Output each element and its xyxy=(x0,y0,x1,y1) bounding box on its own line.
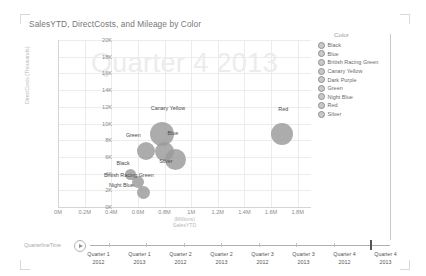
timeline-step-0[interactable]: Quarter 12012 xyxy=(78,251,119,266)
timeline-step-labels: Quarter 12012Quarter 12013Quarter 22012Q… xyxy=(78,251,406,266)
x-tick-label: 1.8M xyxy=(278,209,318,215)
timeline-step-line2: 2013 xyxy=(298,259,310,265)
y-tick-label: 6K xyxy=(52,154,112,160)
timeline-track[interactable] xyxy=(90,245,390,246)
y-tick-label: 8K xyxy=(52,137,112,143)
timeline-step-3[interactable]: Quarter 22013 xyxy=(201,251,242,266)
x-axis-title: (Millions)SalesYTD xyxy=(58,216,311,228)
vertical-scrollbar[interactable] xyxy=(390,34,391,240)
legend-swatch-icon xyxy=(318,85,325,92)
legend-item-black[interactable]: Black xyxy=(318,41,388,50)
legend-item-british-racing-green[interactable]: British Racing Green xyxy=(318,58,388,67)
y-tick-label: 12K xyxy=(52,104,112,110)
legend-item-label: Night Blue xyxy=(328,94,353,100)
legend-item-night-blue[interactable]: Night Blue xyxy=(318,93,388,102)
legend-item-label: Black xyxy=(328,42,341,48)
bubble-label-silver: Silver xyxy=(159,158,172,164)
legend-swatch-icon xyxy=(318,76,325,83)
legend-item-label: Blue xyxy=(328,51,339,57)
timeline-step-line1: Quarter 1 xyxy=(128,251,150,257)
timeline-step-5[interactable]: Quarter 32013 xyxy=(283,251,324,266)
legend-swatch-icon xyxy=(318,59,325,66)
bubble-label-night-blue: Night Blue xyxy=(109,182,134,188)
y-tick-label: 18K xyxy=(52,54,112,60)
timeline-step-1[interactable]: Quarter 12013 xyxy=(119,251,160,266)
timeline-step-line2: 2012 xyxy=(175,259,187,265)
timeline-step-line1: Quarter 2 xyxy=(169,251,191,257)
legend-item-canary-yellow[interactable]: Canary Yellow xyxy=(318,67,388,76)
legend-item-label: Red xyxy=(328,102,338,108)
timeline-step-line1: Quarter 3 xyxy=(251,251,273,257)
timeline-step-7[interactable]: Quarter 42013 xyxy=(365,251,406,266)
y-tick-label: 14K xyxy=(52,87,112,93)
timeline-tick xyxy=(259,243,260,247)
legend-item-silver[interactable]: Silver xyxy=(318,110,388,119)
timeline-tick xyxy=(334,243,335,247)
bubble-label-canary-yellow: Canary Yellow xyxy=(151,105,185,111)
timeline-step-6[interactable]: Quarter 42012 xyxy=(324,251,365,266)
timeline-step-line2: 2012 xyxy=(257,259,269,265)
play-axis-timeline[interactable]: QuarterlineTime Quarter 12012Quarter 120… xyxy=(24,239,402,271)
play-triangle-icon xyxy=(79,244,83,248)
timeline-thumb[interactable] xyxy=(370,240,372,250)
legend-item-green[interactable]: Green xyxy=(318,84,388,93)
legend-item-label: Green xyxy=(328,85,343,91)
timeline-tick xyxy=(296,243,297,247)
bubble-red[interactable] xyxy=(271,123,293,145)
timeline-step-2[interactable]: Quarter 22012 xyxy=(160,251,201,266)
legend: Color BlackBlueBritish Racing GreenCanar… xyxy=(318,31,388,118)
bubble-label-black: Black xyxy=(117,160,130,166)
legend-swatch-icon xyxy=(318,68,325,75)
legend-item-label: British Racing Green xyxy=(328,59,379,65)
y-tick-label: 10K xyxy=(52,121,112,127)
timeline-tick xyxy=(184,243,185,247)
timeline-step-line1: Quarter 3 xyxy=(292,251,314,257)
legend-item-label: Silver xyxy=(328,111,342,117)
page-corner-top-right xyxy=(400,14,410,24)
timeline-step-line2: 2013 xyxy=(380,259,392,265)
legend-item-label: Dark Purple xyxy=(328,77,357,83)
timeline-step-4[interactable]: Quarter 32012 xyxy=(242,251,283,266)
legend-swatch-icon xyxy=(318,102,325,109)
bubble-night-blue[interactable] xyxy=(137,186,150,199)
timeline-tick xyxy=(146,243,147,247)
legend-swatch-icon xyxy=(318,111,325,118)
report-page: SalesYTD, DirectCosts, and Mileage by Co… xyxy=(0,0,426,276)
bubble-green[interactable] xyxy=(137,142,155,160)
timeline-step-line1: Quarter 1 xyxy=(87,251,109,257)
timeline-tick xyxy=(109,243,110,247)
timeline-step-line2: 2013 xyxy=(134,259,146,265)
timeline-step-line2: 2013 xyxy=(216,259,228,265)
timeline-step-line1: Quarter 4 xyxy=(374,251,396,257)
timeline-step-line2: 2012 xyxy=(339,259,351,265)
timeline-step-line2: 2012 xyxy=(93,259,105,265)
legend-swatch-icon xyxy=(318,42,325,49)
legend-swatch-icon xyxy=(318,93,325,100)
legend-item-dark-purple[interactable]: Dark Purple xyxy=(318,75,388,84)
y-tick-label: 4K xyxy=(52,171,112,177)
chart-title: SalesYTD, DirectCosts, and Mileage by Co… xyxy=(29,19,201,29)
legend-item-red[interactable]: Red xyxy=(318,101,388,110)
y-tick-label: 20K xyxy=(52,37,112,43)
legend-item-blue[interactable]: Blue xyxy=(318,50,388,59)
bubble-label-blue: Blue xyxy=(168,130,179,136)
y-axis-title: DirectCosts (Thousands) xyxy=(24,34,30,104)
timeline-step-line1: Quarter 4 xyxy=(333,251,355,257)
timeline-tick xyxy=(221,243,222,247)
legend-item-label: Canary Yellow xyxy=(328,68,363,74)
bubble-label-red: Red xyxy=(278,106,288,112)
legend-title: Color xyxy=(334,31,388,38)
y-tick-label: 16K xyxy=(52,70,112,76)
legend-items: BlackBlueBritish Racing GreenCanary Yell… xyxy=(318,41,388,118)
bubble-label-green: Green xyxy=(126,132,141,138)
timeline-step-line1: Quarter 2 xyxy=(210,251,232,257)
y-tick-label: 2K xyxy=(52,187,112,193)
legend-swatch-icon xyxy=(318,50,325,57)
play-axis-field-label: QuarterlineTime xyxy=(24,242,61,248)
